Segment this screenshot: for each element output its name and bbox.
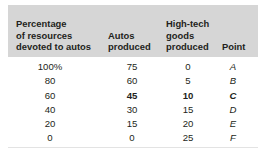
cell-percentage: 20 [8, 117, 106, 131]
cell-percentage: 0 [8, 131, 106, 145]
cell-autos: 0 [106, 131, 162, 145]
column-header-percentage-line-3: devoted to autos [16, 41, 106, 53]
table-body: 100% 75 0 A 80 60 5 B 60 45 10 C 40 30 1… [8, 60, 258, 146]
cell-hightech: 15 [162, 103, 220, 117]
column-header-percentage-line-1: Percentage [16, 18, 106, 30]
column-header-point: Point [220, 41, 258, 53]
column-header-percentage: Percentage of resources devoted to autos [8, 18, 106, 53]
cell-percentage: 40 [8, 103, 106, 117]
production-possibilities-table: Percentage of resources devoted to autos… [0, 0, 264, 151]
cell-hightech: 0 [162, 60, 220, 74]
column-header-autos-produced: Autos produced [106, 30, 162, 53]
table-row: 80 60 5 B [8, 74, 258, 88]
table-row: 100% 75 0 A [8, 60, 258, 74]
cell-autos: 45 [106, 89, 162, 103]
column-header-hightech-line-2: goods [166, 30, 220, 42]
column-header-point-line-1: Point [222, 41, 258, 53]
cell-autos: 30 [106, 103, 162, 117]
table-row: 40 30 15 D [8, 103, 258, 117]
cell-percentage: 60 [8, 89, 106, 103]
column-header-autos-line-2: produced [108, 41, 162, 53]
cell-hightech: 10 [162, 89, 220, 103]
cell-point: A [220, 60, 258, 74]
cell-percentage: 80 [8, 74, 106, 88]
cell-hightech: 20 [162, 117, 220, 131]
column-header-percentage-line-2: of resources [16, 30, 106, 42]
table-row: 0 0 25 F [8, 131, 258, 145]
cell-point: C [220, 89, 258, 103]
cell-autos: 60 [106, 74, 162, 88]
cell-hightech: 5 [162, 74, 220, 88]
table-bottom-rule [8, 147, 258, 148]
cell-point: B [220, 74, 258, 88]
cell-point: F [220, 131, 258, 145]
cell-hightech: 25 [162, 131, 220, 145]
table-header-row: Percentage of resources devoted to autos… [8, 5, 258, 57]
column-header-autos-line-1: Autos [108, 30, 162, 42]
table-row: 20 15 20 E [8, 117, 258, 131]
column-header-hightech-goods-produced: High-tech goods produced [162, 18, 220, 53]
cell-autos: 75 [106, 60, 162, 74]
cell-point: D [220, 103, 258, 117]
table-row: 60 45 10 C [8, 89, 258, 103]
cell-point: E [220, 117, 258, 131]
column-header-hightech-line-1: High-tech [166, 18, 220, 30]
column-header-hightech-line-3: produced [166, 41, 220, 53]
cell-percentage: 100% [8, 60, 106, 74]
cell-autos: 15 [106, 117, 162, 131]
